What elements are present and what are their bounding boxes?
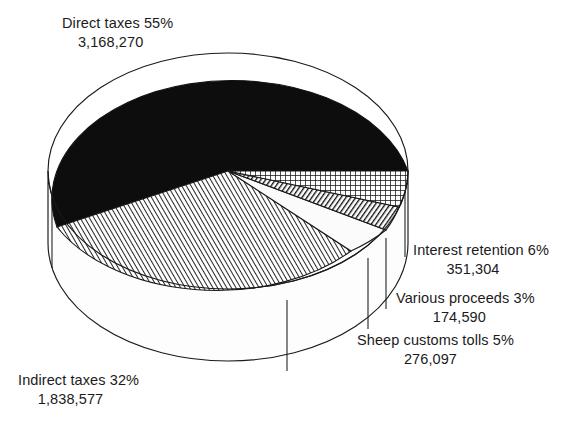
slice-label-interest-retention-line1: Interest retention 6% [413,241,549,260]
slice-label-sheep-customs-tolls-line2: 276,097 [357,350,514,369]
slice-label-various-proceeds-line2: 174,590 [396,308,535,327]
slice-label-interest-retention-line2: 351,304 [413,260,549,279]
slice-label-indirect-taxes-line2: 1,838,577 [18,390,139,409]
slice-label-various-proceeds-line1: Various proceeds 3% [396,289,535,308]
slice-label-direct-taxes-line1: Direct taxes 55% [62,14,173,33]
slice-label-direct-taxes: Direct taxes 55% 3,168,270 [62,14,173,52]
pie-top-face [48,53,408,290]
slice-label-interest-retention: Interest retention 6% 351,304 [413,241,549,279]
slice-label-sheep-customs-tolls-line1: Sheep customs tolls 5% [357,331,514,350]
pie-chart-figure: Direct taxes 55% 3,168,270 Interest rete… [0,0,582,421]
slice-label-sheep-customs-tolls: Sheep customs tolls 5% 276,097 [357,331,514,369]
slice-label-indirect-taxes-line1: Indirect taxes 32% [18,371,139,390]
slice-label-direct-taxes-line2: 3,168,270 [62,33,173,52]
slice-label-various-proceeds: Various proceeds 3% 174,590 [396,289,535,327]
slice-label-indirect-taxes: Indirect taxes 32% 1,838,577 [18,371,139,409]
